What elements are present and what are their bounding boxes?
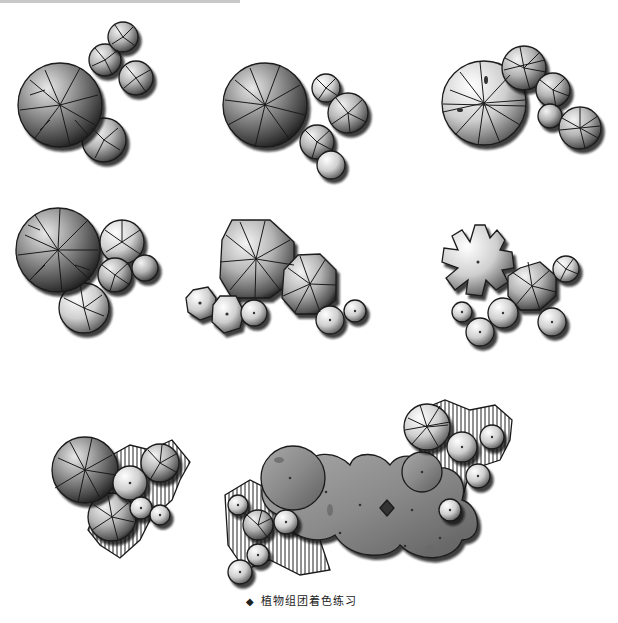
diamond-bullet-icon: ◆ xyxy=(246,596,255,607)
plant-group-7 xyxy=(52,437,190,558)
plant-group-8 xyxy=(225,400,512,584)
plant-group-1 xyxy=(18,22,153,162)
plant-illustrations xyxy=(0,0,618,623)
plant-group-4 xyxy=(16,208,158,333)
caption-text: 植物组团着色练习 xyxy=(261,595,357,608)
plant-group-5 xyxy=(186,220,366,334)
figure-caption: ◆植物组团着色练习 xyxy=(246,592,357,608)
plant-group-6 xyxy=(442,225,579,346)
plant-group-3 xyxy=(442,46,601,149)
plant-group-2 xyxy=(223,63,368,179)
